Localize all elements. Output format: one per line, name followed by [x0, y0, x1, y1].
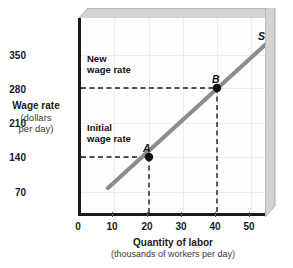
supply-curve-line	[108, 45, 265, 188]
xtick-label-30: 30	[166, 221, 196, 232]
xtick-mark-40	[215, 212, 216, 217]
ytick-label-280: 280	[0, 84, 26, 95]
curve-label-s: S	[258, 30, 265, 42]
point-label-b: B	[212, 73, 220, 85]
xtick-mark-30	[181, 212, 182, 217]
y-axis-title-main: Wage rate	[2, 100, 70, 112]
x-axis-title-main: Quantity of labor	[78, 237, 268, 249]
ytick-label-70: 70	[0, 187, 26, 198]
annotation-new-wage-rate-line2: wage rate	[87, 64, 131, 75]
frame-right-bevel	[265, 8, 276, 217]
x-axis-title: Quantity of labor (thousands of workers …	[78, 237, 268, 260]
annotation-initial-wage-rate: Initial wage rate	[87, 122, 131, 144]
supply-curve-figure: New wage rate Initial wage rate A B S 35…	[0, 0, 293, 268]
xtick-label-40: 40	[200, 221, 230, 232]
ytick-label-140: 140	[0, 152, 26, 163]
annotation-initial-wage-rate-line1: Initial	[87, 122, 112, 133]
data-point-b	[213, 84, 221, 92]
y-axis-title-sub1: (dollars	[2, 112, 70, 124]
plot-area: New wage rate Initial wage rate A B S	[78, 18, 265, 216]
xtick-label-20: 20	[132, 221, 162, 232]
ytick-mark-280	[78, 88, 82, 89]
xtick-label-50: 50	[234, 221, 264, 232]
annotation-new-wage-rate: New wage rate	[87, 53, 131, 75]
ytick-mark-140	[78, 157, 82, 158]
xtick-mark-20	[147, 212, 148, 217]
xtick-mark-50	[249, 212, 250, 217]
xtick-label-0: 0	[63, 221, 93, 232]
data-point-a	[145, 153, 153, 161]
xtick-mark-10	[112, 212, 113, 217]
annotation-new-wage-rate-line1: New	[87, 53, 107, 64]
xtick-label-10: 10	[97, 221, 127, 232]
chart-canvas	[78, 18, 265, 216]
y-axis-title-sub2: per day)	[2, 123, 70, 135]
annotation-initial-wage-rate-line2: wage rate	[87, 133, 131, 144]
ytick-label-350: 350	[0, 50, 26, 61]
x-axis-title-sub: (thousands of workers per day)	[78, 249, 268, 260]
point-label-a: A	[143, 142, 151, 154]
y-axis-title: Wage rate (dollars per day)	[2, 100, 70, 135]
